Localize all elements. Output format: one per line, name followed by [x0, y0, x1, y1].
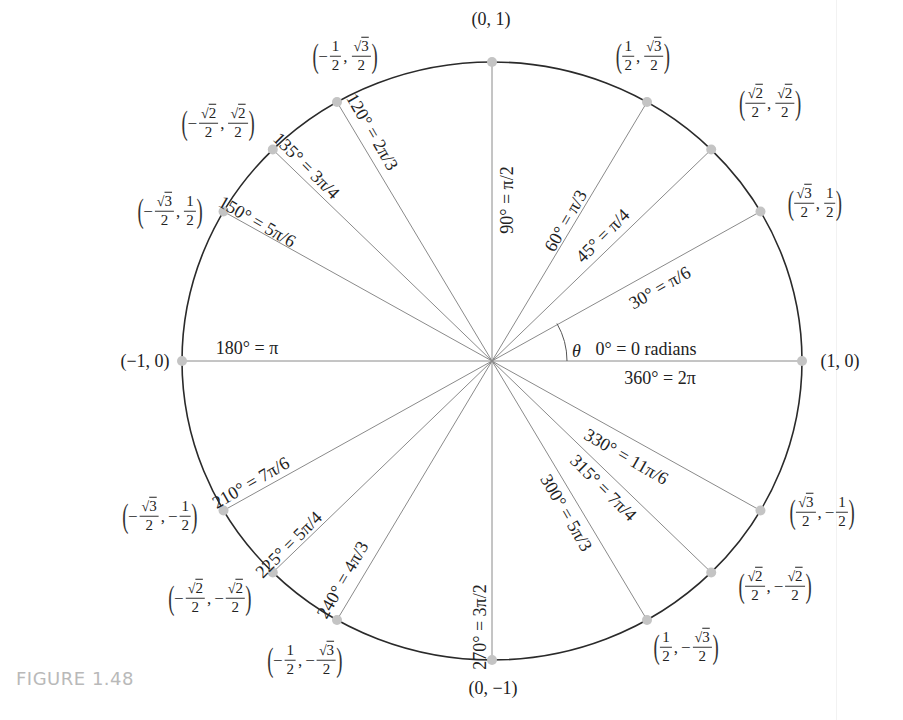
fraction: √22: [226, 581, 245, 616]
point-30deg: [755, 207, 765, 217]
ray-45deg: [492, 150, 711, 361]
fraction: 12: [824, 186, 836, 221]
point-60deg: [642, 97, 652, 107]
fraction: √32: [352, 39, 371, 74]
fraction: √22: [228, 106, 247, 141]
fraction: √22: [746, 86, 765, 121]
fraction: 12: [184, 194, 196, 229]
fraction: √32: [317, 643, 336, 678]
fraction: √22: [199, 106, 218, 141]
ray-315deg: [492, 361, 711, 572]
fraction: 12: [180, 499, 192, 534]
point-120deg: [332, 97, 342, 107]
point-330deg: [755, 506, 765, 516]
point-0deg: [797, 356, 807, 366]
coordinate-label-p90: (0, 1): [472, 10, 511, 28]
coordinate-label-p45: (√22,√22): [739, 86, 800, 121]
fraction: √32: [693, 630, 712, 665]
coordinate-label-p180: (−1, 0): [120, 352, 169, 370]
figure-canvas: θ 0° = 0 radians360° = 2π30° = π/645° = …: [0, 0, 903, 720]
coordinate-label-p240: (−12,−√32): [268, 643, 343, 678]
fraction: 12: [285, 643, 297, 678]
point-90deg: [487, 57, 497, 67]
coordinate-label-p300: (12,−√32): [654, 630, 718, 665]
theta-label: θ: [572, 341, 581, 362]
fraction: √32: [644, 39, 663, 74]
fraction: √22: [186, 581, 205, 616]
fraction: √22: [745, 569, 764, 604]
coordinate-label-p135: (−√22,√22): [182, 106, 254, 141]
coordinate-label-p330: (√32,−12): [790, 495, 854, 530]
fraction: √32: [155, 194, 174, 229]
coordinate-label-p150: (−√32,12): [138, 194, 202, 229]
fraction: √22: [775, 86, 794, 121]
figure-caption: FIGURE 1.48: [16, 668, 134, 689]
fraction: 12: [836, 495, 848, 530]
coordinate-label-p0: (1, 0): [821, 352, 860, 370]
coordinate-label-p60: (12,√32): [616, 39, 670, 74]
point-45deg: [706, 145, 716, 155]
coordinate-label-p210: (−√32,−12): [123, 499, 198, 534]
fraction: √22: [785, 569, 804, 604]
coordinate-label-p315: (√22,−√22): [739, 569, 811, 604]
coordinate-label-p225: (−√22,−√22): [169, 581, 251, 616]
ray-240deg: [337, 361, 492, 620]
coordinate-label-p270: (0, −1): [468, 679, 517, 697]
angle-label: 360° = 2π: [624, 368, 695, 389]
angle-label: 180° = π: [216, 338, 278, 359]
fraction: 12: [623, 39, 635, 74]
angle-label: 90° = π/2: [497, 166, 518, 233]
fraction: √32: [796, 495, 815, 530]
angle-label: 270° = 3π/2: [470, 584, 491, 669]
fraction: √32: [140, 499, 159, 534]
point-300deg: [642, 615, 652, 625]
ray-120deg: [337, 102, 492, 361]
coordinate-label-p30: (√32,12): [788, 186, 842, 221]
theta-arc: [557, 324, 567, 362]
coordinate-label-p120: (−12,√32): [313, 39, 377, 74]
point-315deg: [706, 567, 716, 577]
fraction: 12: [660, 630, 672, 665]
point-180deg: [177, 356, 187, 366]
fraction: √32: [795, 186, 814, 221]
fraction: 12: [330, 39, 342, 74]
ray-210deg: [224, 361, 492, 511]
angle-label: 0° = 0 radians: [596, 339, 697, 360]
ray-300deg: [492, 361, 647, 620]
